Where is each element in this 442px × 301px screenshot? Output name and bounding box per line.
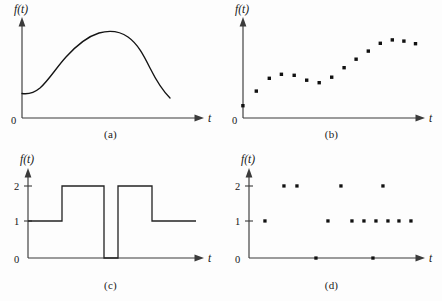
y-axis-arrowhead bbox=[240, 17, 247, 27]
sample-dot bbox=[414, 42, 417, 45]
sample-dot bbox=[326, 219, 329, 222]
sample-dot bbox=[381, 184, 384, 187]
origin-label: 0 bbox=[235, 254, 240, 265]
step-waveform bbox=[28, 186, 196, 258]
sample-dot bbox=[314, 256, 317, 259]
panel-d-plot: f(t) t 2 1 0 bbox=[221, 150, 442, 279]
y-tick-label-1: 1 bbox=[14, 216, 19, 227]
y-axis-label: f(t) bbox=[20, 153, 34, 166]
sample-dot bbox=[391, 38, 394, 41]
origin-label: 0 bbox=[14, 254, 19, 265]
x-axis-arrowhead bbox=[195, 115, 205, 122]
panel-a-plot: f(t) t 0 bbox=[0, 0, 221, 128]
x-axis-label: t bbox=[208, 252, 212, 264]
sample-dot bbox=[295, 184, 298, 187]
x-axis-label: t bbox=[429, 112, 433, 124]
y-axis-arrowhead bbox=[246, 168, 253, 178]
y-axis-label: f(t) bbox=[241, 153, 255, 166]
panel-c-plot: f(t) t 2 1 0 bbox=[0, 150, 221, 279]
sample-dot bbox=[268, 77, 271, 80]
panel-d-caption: (d) bbox=[221, 279, 442, 291]
panel-d: f(t) t 2 1 0 (d) bbox=[221, 150, 442, 301]
sample-dot bbox=[280, 73, 283, 76]
signal-curve bbox=[22, 31, 170, 98]
panel-c-caption: (c) bbox=[0, 279, 221, 291]
panel-b-caption: (b) bbox=[221, 128, 442, 140]
sample-dot bbox=[362, 219, 365, 222]
y-axis-arrowhead bbox=[25, 168, 32, 178]
sample-dot bbox=[386, 219, 389, 222]
y-axis-label: f(t) bbox=[14, 3, 28, 16]
panel-b: f(t) t 0 (b) bbox=[221, 0, 442, 150]
origin-label: 0 bbox=[232, 115, 237, 126]
sample-dot bbox=[305, 79, 308, 82]
sample-dot bbox=[397, 219, 400, 222]
sample-dot bbox=[409, 219, 412, 222]
sample-dot bbox=[255, 89, 258, 92]
sample-dot bbox=[330, 76, 333, 79]
y-axis-label: f(t) bbox=[235, 3, 249, 16]
sample-dot bbox=[339, 184, 342, 187]
sample-dot bbox=[282, 184, 285, 187]
panel-b-plot: f(t) t 0 bbox=[221, 0, 442, 128]
sample-dot bbox=[318, 81, 321, 84]
x-axis-label: t bbox=[208, 112, 212, 124]
y-tick-label-1: 1 bbox=[235, 216, 240, 227]
sample-dot bbox=[371, 256, 374, 259]
y-tick-label-2: 2 bbox=[235, 181, 240, 192]
sample-dot bbox=[350, 219, 353, 222]
y-axis-arrowhead bbox=[19, 17, 26, 27]
sample-dot bbox=[342, 66, 345, 69]
sample-dot bbox=[354, 58, 357, 61]
x-axis-arrowhead bbox=[195, 255, 205, 262]
sample-dot bbox=[402, 39, 405, 42]
sample-dot bbox=[367, 49, 370, 52]
sample-dot bbox=[241, 104, 244, 107]
x-axis-label: t bbox=[429, 252, 433, 264]
sample-dots bbox=[241, 38, 417, 107]
origin-label: 0 bbox=[11, 115, 16, 126]
sample-dot bbox=[293, 74, 296, 77]
sample-dot bbox=[379, 42, 382, 45]
panel-a-caption: (a) bbox=[0, 128, 221, 140]
y-tick-label-2: 2 bbox=[14, 181, 19, 192]
x-axis-arrowhead bbox=[416, 115, 426, 122]
signal-classes-figure: f(t) t 0 (a) bbox=[0, 0, 442, 301]
digital-sample-dots bbox=[263, 184, 412, 259]
sample-dot bbox=[374, 219, 377, 222]
sample-dot bbox=[263, 219, 266, 222]
panel-a: f(t) t 0 (a) bbox=[0, 0, 221, 150]
panel-c: f(t) t 2 1 0 (c) bbox=[0, 150, 221, 301]
x-axis-arrowhead bbox=[416, 255, 426, 262]
